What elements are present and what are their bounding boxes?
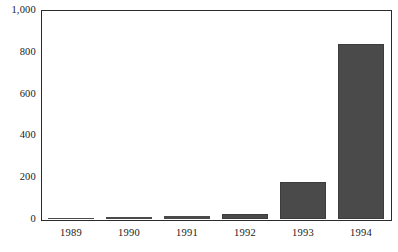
x-tick-label-1990: 1990	[106, 227, 152, 239]
x-tick-label-1992: 1992	[222, 227, 268, 239]
y-tick-label-1000: 1,000	[0, 5, 36, 16]
x-tick-label-1994: 1994	[338, 227, 384, 239]
bar-1992[interactable]	[222, 214, 268, 219]
bar-slot-1989	[48, 11, 94, 219]
bar-slot-1992	[222, 11, 268, 219]
x-tick-label-1989: 1989	[48, 227, 94, 239]
y-tick-label-400: 400	[0, 130, 36, 141]
bar-1990[interactable]	[106, 217, 152, 219]
bar-chart: 1,000 800 600 400 200 0	[0, 0, 398, 252]
y-tick-label-600: 600	[0, 89, 36, 100]
y-tick-label-200: 200	[0, 172, 36, 183]
bar-slot-1993	[280, 11, 326, 219]
bar-slot-1990	[106, 11, 152, 219]
bar-1989[interactable]	[48, 218, 94, 219]
bar-1993[interactable]	[280, 182, 326, 219]
x-tick-label-1991: 1991	[164, 227, 210, 239]
bars-layer	[42, 11, 390, 219]
bar-1994[interactable]	[338, 44, 384, 219]
x-tick-label-1993: 1993	[280, 227, 326, 239]
x-axis: 1989 1990 1991 1992 1993 1994	[42, 227, 390, 243]
bar-1991[interactable]	[164, 216, 210, 219]
y-tick-label-0: 0	[0, 214, 36, 225]
bar-slot-1991	[164, 11, 210, 219]
bar-slot-1994	[338, 11, 384, 219]
y-tick-label-800: 800	[0, 47, 36, 58]
